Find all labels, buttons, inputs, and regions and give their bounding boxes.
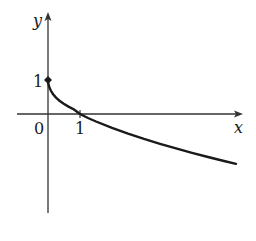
graph: y x 1 0 1: [0, 0, 256, 241]
y-axis-label: y: [32, 11, 43, 30]
y-tick-label: 1: [33, 72, 43, 91]
x-axis-label: x: [234, 118, 243, 137]
point-marker-icon: [44, 76, 52, 84]
origin-label: 0: [34, 119, 44, 138]
x-tick-label: 1: [75, 119, 85, 138]
